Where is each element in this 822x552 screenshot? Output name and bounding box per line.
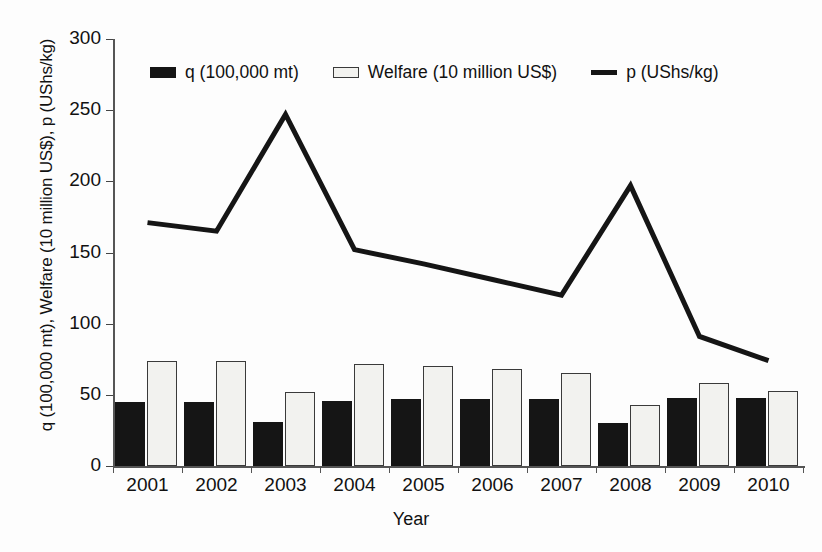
x-tick-mark bbox=[251, 466, 252, 473]
plot-area bbox=[113, 39, 803, 466]
bar-q bbox=[322, 401, 352, 466]
bar-q bbox=[391, 399, 421, 466]
y-tick-mark bbox=[106, 181, 113, 182]
bar-q bbox=[529, 399, 559, 466]
bar-welfare bbox=[768, 391, 798, 466]
bar-welfare bbox=[561, 373, 591, 466]
x-tick-mark bbox=[182, 466, 183, 473]
x-tick-label: 2004 bbox=[320, 474, 390, 496]
legend-item-p: p (UShs/kg) bbox=[591, 62, 718, 83]
y-tick-label: 250 bbox=[51, 99, 101, 118]
y-tick-label: 150 bbox=[51, 242, 101, 261]
legend-label-p: p (UShs/kg) bbox=[626, 62, 718, 83]
y-tick-mark bbox=[106, 253, 113, 254]
x-tick-mark bbox=[458, 466, 459, 473]
x-tick-mark bbox=[596, 466, 597, 473]
y-tick-mark bbox=[106, 110, 113, 111]
line-swatch-icon bbox=[591, 70, 617, 75]
bar-q bbox=[460, 399, 490, 466]
bar-q bbox=[667, 398, 697, 466]
y-tick-label: 300 bbox=[51, 28, 101, 47]
bar-q bbox=[115, 402, 145, 466]
bar-welfare bbox=[354, 364, 384, 466]
x-tick-mark bbox=[803, 466, 804, 473]
x-tick-mark bbox=[734, 466, 735, 473]
x-tick-mark bbox=[389, 466, 390, 473]
bar-welfare bbox=[216, 361, 246, 466]
chart-figure: q (100,000 mt), Welfare (10 million US$)… bbox=[0, 0, 822, 552]
y-tick-mark bbox=[106, 466, 113, 467]
filled-square-swatch-icon bbox=[150, 67, 176, 78]
bar-q bbox=[184, 402, 214, 466]
legend-item-q: q (100,000 mt) bbox=[150, 62, 299, 83]
x-tick-label: 2005 bbox=[389, 474, 459, 496]
x-tick-label: 2010 bbox=[734, 474, 804, 496]
x-tick-label: 2001 bbox=[113, 474, 183, 496]
x-tick-mark bbox=[665, 466, 666, 473]
legend-label-welfare: Welfare (10 million US$) bbox=[368, 62, 557, 83]
x-tick-mark bbox=[320, 466, 321, 473]
bar-q bbox=[736, 398, 766, 466]
bar-welfare bbox=[699, 383, 729, 466]
bar-q bbox=[253, 422, 283, 466]
x-tick-mark bbox=[113, 466, 114, 473]
bar-q bbox=[598, 423, 628, 466]
x-tick-label: 2003 bbox=[251, 474, 321, 496]
x-axis-title: Year bbox=[0, 509, 822, 530]
y-tick-label: 50 bbox=[51, 384, 101, 403]
chart-legend: q (100,000 mt) Welfare (10 million US$) … bbox=[150, 62, 719, 83]
x-tick-label: 2009 bbox=[665, 474, 735, 496]
bar-welfare bbox=[492, 369, 522, 466]
y-tick-mark bbox=[106, 39, 113, 40]
x-tick-label: 2002 bbox=[182, 474, 252, 496]
x-tick-label: 2007 bbox=[527, 474, 597, 496]
bar-welfare bbox=[147, 361, 177, 466]
x-axis-line bbox=[113, 466, 805, 468]
x-tick-mark bbox=[527, 466, 528, 473]
bar-welfare bbox=[285, 392, 315, 466]
y-tick-label: 200 bbox=[51, 170, 101, 189]
y-tick-label: 0 bbox=[51, 455, 101, 474]
outlined-square-swatch-icon bbox=[333, 67, 359, 78]
legend-item-welfare: Welfare (10 million US$) bbox=[333, 62, 557, 83]
y-tick-label: 100 bbox=[51, 313, 101, 332]
y-tick-mark bbox=[106, 324, 113, 325]
legend-label-q: q (100,000 mt) bbox=[185, 62, 299, 83]
bar-welfare bbox=[630, 405, 660, 466]
x-tick-label: 2006 bbox=[458, 474, 528, 496]
x-tick-label: 2008 bbox=[596, 474, 666, 496]
y-tick-mark bbox=[106, 395, 113, 396]
bar-welfare bbox=[423, 366, 453, 466]
